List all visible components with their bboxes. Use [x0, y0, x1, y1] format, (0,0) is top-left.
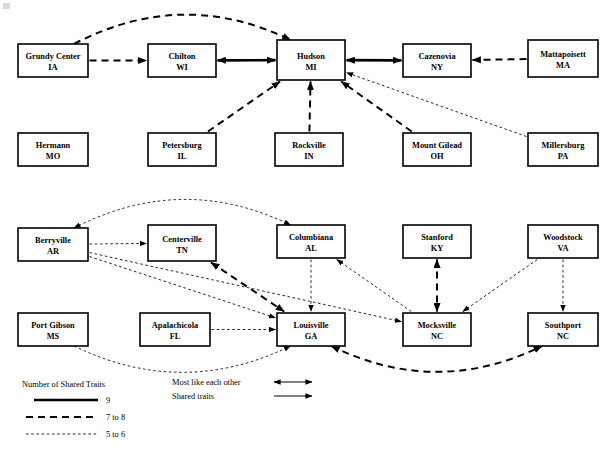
legend-label-7to8: 7 to 8: [106, 413, 125, 422]
node-city-label: Grundy Center: [25, 52, 80, 61]
legend-title: Number of Shared Traits: [22, 380, 105, 389]
node-columbiana[interactable]: ColumbianaAL: [277, 225, 345, 258]
diagram-svg: Grundy CenterIAChiltonWIHudsonMICazenovi…: [0, 0, 609, 451]
node-city-label: Rockville: [292, 141, 326, 150]
legend: Number of Shared Traits 9 7 to 8 5 to 6 …: [22, 378, 312, 439]
node-rockville[interactable]: RockvilleIN: [275, 133, 343, 166]
node-city-label: Hermann: [36, 141, 71, 150]
edge-petersburg-to-hudson: [208, 82, 280, 132]
edge-louisville-to-southport: [331, 346, 542, 372]
node-layer: Grundy CenterIAChiltonWIHudsonMICazenovi…: [18, 40, 598, 346]
node-stanford[interactable]: StanfordKY: [403, 225, 471, 258]
node-state-label: MI: [305, 63, 316, 72]
figure-canvas: Grundy CenterIAChiltonWIHudsonMICazenovi…: [0, 0, 609, 451]
legend-label-9: 9: [106, 396, 110, 405]
legend-label-5to6: 5 to 6: [106, 430, 125, 439]
node-state-label: IN: [304, 152, 313, 161]
node-state-label: PA: [558, 152, 569, 161]
node-cazenovia[interactable]: CazenoviaNY: [403, 44, 471, 77]
node-grundy[interactable]: Grundy CenterIA: [18, 44, 88, 77]
edge-berryville-to-centerville: [90, 243, 147, 244]
node-state-label: GA: [305, 332, 318, 341]
node-mocksville[interactable]: MocksvilleNC: [403, 313, 471, 346]
node-city-label: Cazenovia: [418, 52, 456, 61]
edge-mountgilead-to-hudson: [341, 82, 411, 132]
node-state-label: VA: [557, 244, 568, 253]
node-state-label: KY: [431, 244, 444, 253]
node-portgibson[interactable]: Port GibsonMS: [18, 313, 88, 346]
node-state-label: AR: [47, 247, 60, 256]
node-berryville[interactable]: BerryvilleAR: [18, 228, 88, 261]
node-state-label: MA: [556, 61, 570, 70]
node-hudson[interactable]: HudsonMI: [277, 40, 345, 80]
legend-label-most-like: Most like each other: [172, 378, 241, 387]
node-state-label: OH: [430, 152, 444, 161]
node-southport[interactable]: SouthportNC: [528, 313, 598, 346]
node-apalachicola[interactable]: ApalachicolaFL: [140, 313, 210, 346]
node-hermann[interactable]: HermannMO: [18, 133, 88, 166]
edge-grundy-to-hudson: [74, 15, 291, 44]
edge-rockville-to-hudson: [309, 82, 310, 132]
node-chilton[interactable]: ChiltonWI: [148, 44, 216, 77]
node-city-label: Mount Gilead: [412, 141, 462, 150]
node-city-label: Louisville: [294, 321, 329, 330]
node-city-label: Petersburg: [162, 141, 202, 150]
node-city-label: Mattapoisett: [540, 50, 586, 59]
node-state-label: IL: [178, 152, 187, 161]
node-state-label: MO: [46, 152, 61, 161]
node-state-label: WI: [176, 63, 188, 72]
node-state-label: IA: [48, 63, 57, 72]
node-millersburg[interactable]: MillersburgPA: [528, 133, 598, 166]
node-city-label: Apalachicola: [152, 321, 199, 330]
node-city-label: Centerville: [162, 235, 202, 244]
edge-mocksville-to-columbiana: [337, 260, 411, 312]
node-centerville[interactable]: CentervilleTN: [148, 225, 216, 261]
node-louisville[interactable]: LouisvilleGA: [277, 313, 345, 346]
node-petersburg[interactable]: PetersburgIL: [148, 133, 216, 166]
node-city-label: Millersburg: [542, 141, 586, 150]
edge-berryville-to-mocksville: [90, 253, 402, 322]
node-city-label: Berryville: [35, 236, 71, 245]
node-state-label: FL: [170, 332, 181, 341]
node-mountgilead[interactable]: Mount GileadOH: [403, 133, 471, 166]
node-state-label: TN: [176, 246, 188, 255]
node-mattapoisett[interactable]: MattapoisettMA: [528, 40, 598, 77]
node-state-label: MS: [47, 332, 60, 341]
edge-centerville-to-louisville: [211, 263, 284, 312]
node-state-label: NY: [431, 63, 443, 72]
node-city-label: Mocksville: [418, 321, 457, 330]
node-city-label: Woodstock: [543, 233, 583, 242]
node-city-label: Southport: [545, 321, 582, 330]
edge-portgibson-to-louisville: [74, 346, 291, 372]
edge-millersburg-to-hudson: [347, 73, 527, 137]
node-state-label: NC: [431, 332, 443, 341]
node-state-label: AL: [305, 244, 317, 253]
node-city-label: Stanford: [421, 233, 453, 242]
node-city-label: Port Gibson: [31, 321, 75, 330]
node-city-label: Hudson: [297, 52, 325, 61]
edge-mattapoisett-to-cazenovia: [473, 59, 527, 60]
node-city-label: Columbiana: [289, 233, 334, 242]
edge-woodstock-to-mocksville: [463, 260, 537, 312]
edge-berryville-to-columbiana: [74, 199, 291, 228]
node-woodstock[interactable]: WoodstockVA: [528, 225, 598, 258]
node-city-label: Chilton: [169, 52, 196, 61]
node-state-label: NC: [557, 332, 569, 341]
legend-label-shared-traits: Shared traits: [172, 392, 214, 401]
